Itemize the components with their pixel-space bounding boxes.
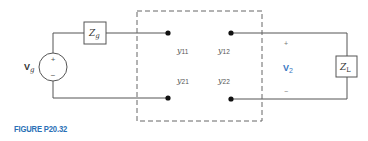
param-y12: y12: [217, 46, 230, 55]
param-y21: y21: [176, 76, 189, 85]
terminal-port2-bottom: [228, 96, 233, 101]
two-port-network-box: [137, 11, 262, 121]
terminal-port1-top: [165, 30, 170, 35]
wire-source-bottom: [53, 81, 168, 98]
param-y11: y11: [176, 46, 189, 55]
wire-port2-bottom: [231, 77, 347, 99]
terminal-port1-bottom: [165, 95, 170, 100]
output-voltage-label: V2: [283, 63, 293, 74]
output-plus: +: [284, 40, 288, 47]
circuit-diagram: + − Vg Zg y11 y12 y21 y22 + V2 − ZL: [0, 0, 368, 141]
param-y22: y22: [217, 76, 230, 85]
source-plus: +: [51, 55, 56, 64]
output-minus: −: [284, 88, 288, 95]
terminal-port2-top: [228, 30, 233, 35]
source-label: Vg: [24, 62, 35, 74]
wire-port2-top: [231, 33, 347, 56]
wire-source-top: [53, 33, 84, 53]
source-minus: −: [51, 71, 56, 80]
figure-caption: FIGURE P20.32: [14, 124, 67, 134]
